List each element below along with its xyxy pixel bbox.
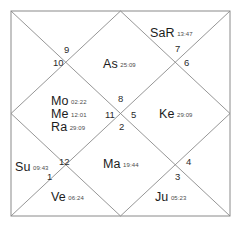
chart-frame-graphic bbox=[0, 0, 242, 227]
vedic-birth-chart: 123456789101112 SaR13:47As25:09Mo02:22Me… bbox=[0, 0, 242, 227]
